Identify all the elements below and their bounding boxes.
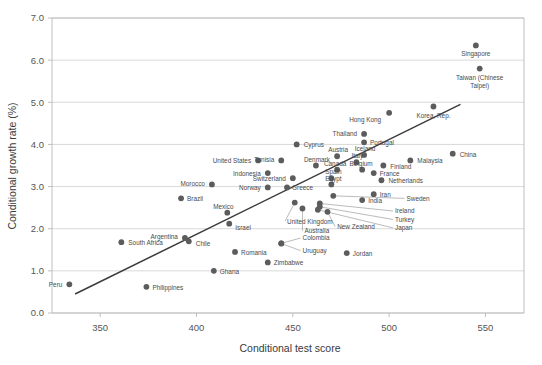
data-point-label: Colombia	[303, 234, 330, 241]
y-tick-label: 6.0	[31, 55, 44, 66]
gridlines-group	[52, 18, 524, 313]
data-point	[380, 163, 386, 169]
data-point-label: Tunisia	[254, 156, 275, 163]
data-point	[211, 268, 217, 274]
data-point-label: India	[368, 197, 382, 204]
data-point	[379, 177, 385, 183]
y-tick-label: 0.0	[31, 307, 44, 318]
data-point-label: Austria	[328, 146, 348, 153]
data-point-label: Ireland	[395, 207, 415, 214]
ticks-group	[48, 18, 485, 317]
data-point	[477, 66, 483, 72]
y-tick-label: 2.0	[31, 223, 44, 234]
data-point	[344, 250, 350, 256]
data-point-label: South Africa	[128, 239, 163, 246]
trend-line-group	[75, 104, 460, 294]
data-point	[292, 200, 298, 206]
data-point-label: Uruguay	[303, 247, 328, 255]
data-point	[224, 210, 230, 216]
data-point-label: Philippines	[152, 284, 183, 292]
data-point	[232, 249, 238, 255]
data-point	[325, 209, 331, 215]
leader-line	[281, 238, 300, 243]
data-point	[118, 239, 124, 245]
data-point-label: Israel	[235, 224, 251, 231]
data-point	[278, 241, 284, 247]
data-point	[186, 238, 192, 244]
data-point	[431, 104, 437, 110]
x-tick-label: 550	[478, 322, 494, 333]
data-point-label: Turkey	[395, 216, 415, 224]
data-point-label: Cyprus	[304, 141, 324, 149]
data-point-label: Zimbabwe	[274, 259, 304, 266]
data-point	[330, 193, 336, 199]
data-point-label: United Kingdom	[287, 218, 332, 226]
x-tick-label: 400	[189, 322, 205, 333]
data-point	[315, 207, 321, 213]
data-point	[473, 42, 479, 48]
x-tick-label: 350	[92, 322, 108, 333]
data-point-label: Hong Kong	[349, 116, 381, 124]
data-points-group	[66, 42, 482, 289]
data-point	[361, 131, 367, 137]
data-point-label: New Zealand	[337, 223, 375, 230]
data-point-label: United States	[213, 157, 251, 164]
data-point-label: Taiwan (Chinese	[456, 74, 504, 82]
data-point-label: Ghana	[220, 268, 240, 275]
data-point-label: China	[460, 151, 477, 158]
data-point-label: Norway	[239, 184, 261, 192]
data-point-label: Chile	[196, 240, 211, 247]
data-point-label: Finland	[390, 163, 411, 170]
data-point-label: Thailand	[333, 130, 358, 137]
point-labels-group: SingaporeTaiwan (ChineseTaipei)Korea, Re…	[49, 50, 504, 291]
y-tick-label: 5.0	[31, 97, 44, 108]
data-point-label: Jordan	[353, 250, 373, 257]
data-point	[290, 175, 296, 181]
data-point	[278, 158, 284, 164]
trend-line	[75, 104, 460, 294]
data-point-label: Brazil	[187, 195, 203, 202]
data-point	[334, 153, 340, 159]
data-point	[284, 185, 290, 191]
x-tick-label: 500	[381, 322, 397, 333]
data-point-label: Switzerland	[253, 175, 286, 182]
data-point-label: Sweden	[407, 195, 431, 202]
plot-svg: 3504004505005500.01.02.03.04.05.06.07.0 …	[0, 0, 542, 365]
data-point	[359, 197, 365, 203]
data-point-label: Taipei)	[470, 82, 489, 90]
data-point	[359, 167, 365, 173]
y-tick-label: 1.0	[31, 265, 44, 276]
x-axis-title: Conditional test score	[240, 342, 341, 354]
data-point-label: Korea, Rep.	[416, 112, 450, 120]
data-point-label: Greece	[292, 184, 313, 191]
data-point	[294, 142, 300, 148]
data-point	[265, 185, 271, 191]
y-tick-label: 4.0	[31, 139, 44, 150]
data-point	[386, 110, 392, 116]
data-point-label: Malaysia	[417, 157, 443, 165]
data-point	[300, 206, 306, 212]
data-point-label: Belgium	[350, 160, 373, 168]
data-point	[178, 195, 184, 201]
y-tick-label: 3.0	[31, 181, 44, 192]
data-point-label: Australia	[304, 227, 329, 234]
data-point-label: Japan	[395, 224, 413, 232]
data-point-label: France	[380, 170, 400, 177]
data-point-label: Egypt	[325, 175, 342, 183]
data-point-label: Peru	[49, 281, 63, 288]
data-point	[66, 281, 72, 287]
leader-line	[320, 203, 393, 211]
scatter-chart-figure: 3504004505005500.01.02.03.04.05.06.07.0 …	[0, 0, 542, 365]
data-point	[144, 284, 150, 290]
data-point	[265, 260, 271, 266]
y-tick-label: 7.0	[31, 12, 44, 23]
leader-line	[281, 243, 300, 250]
data-point	[209, 182, 215, 188]
data-point-label: Morocco	[180, 180, 205, 187]
data-point-label: Mexico	[213, 203, 234, 210]
data-point-label: Netherlands	[388, 177, 422, 184]
x-tick-label: 450	[285, 322, 301, 333]
data-point	[226, 221, 232, 227]
y-axis-title: Conditional growth rate (%)	[6, 102, 18, 229]
data-point-label: Canada	[324, 160, 347, 167]
